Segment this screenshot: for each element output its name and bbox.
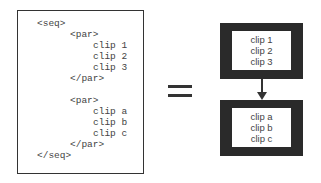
arrow-down-icon — [257, 92, 267, 100]
clip-label: clip 3 — [250, 56, 272, 67]
par-block-1-content: clip 1 clip 2 clip 3 — [232, 31, 291, 70]
code-line-par-close: </par> — [70, 139, 104, 150]
code-line-clip: clip 2 — [93, 51, 127, 62]
code-line-clip: clip c — [93, 128, 127, 139]
code-line-clip: clip 3 — [93, 62, 127, 73]
equals-sign-bottom-bar — [168, 94, 192, 97]
equals-sign-top-bar — [168, 85, 192, 88]
code-line-par-close: </par> — [70, 73, 104, 84]
code-line-clip: clip a — [93, 106, 127, 117]
code-line-par-open: <par> — [70, 95, 99, 106]
code-line-par-open: <par> — [70, 29, 99, 40]
sequence-arrow-shaft — [261, 79, 263, 93]
par-block-1: clip 1 clip 2 clip 3 — [220, 23, 303, 79]
par-block-2-content: clip a clip b clip c — [232, 108, 291, 147]
clip-label: clip c — [251, 133, 273, 144]
clip-label: clip 2 — [250, 45, 272, 56]
clip-label: clip 1 — [250, 34, 272, 45]
clip-label: clip b — [250, 122, 272, 133]
clip-label: clip a — [250, 111, 272, 122]
code-line-clip: clip b — [93, 117, 127, 128]
code-line-seq-open: <seq> — [37, 18, 66, 29]
par-block-2: clip a clip b clip c — [220, 100, 303, 156]
code-line-seq-close: </seq> — [37, 150, 71, 161]
code-line-clip: clip 1 — [93, 40, 127, 51]
